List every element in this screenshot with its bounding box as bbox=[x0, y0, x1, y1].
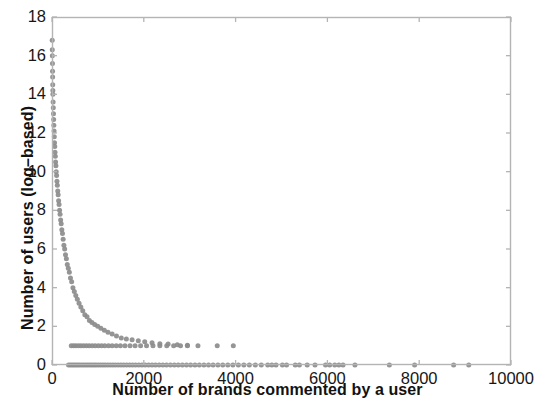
data-point bbox=[144, 343, 149, 348]
data-point bbox=[62, 247, 67, 252]
data-point bbox=[150, 343, 155, 348]
x-tick-label: 4000 bbox=[186, 369, 286, 388]
data-point bbox=[171, 343, 176, 348]
plot-background bbox=[52, 17, 511, 365]
data-point bbox=[51, 111, 56, 116]
data-point bbox=[51, 105, 56, 110]
data-point bbox=[110, 332, 115, 337]
x-tick-label: 6000 bbox=[277, 369, 377, 388]
data-point bbox=[53, 163, 58, 168]
data-point bbox=[195, 343, 200, 348]
x-tick-label: 2000 bbox=[94, 369, 194, 388]
y-tick-label: 18 bbox=[28, 7, 46, 26]
y-tick-label: 6 bbox=[37, 239, 46, 258]
y-tick-label: 12 bbox=[28, 123, 46, 142]
y-tick-label: 2 bbox=[37, 316, 46, 335]
y-tick-label: 16 bbox=[28, 46, 46, 65]
data-point bbox=[61, 237, 66, 242]
data-point bbox=[59, 221, 64, 226]
data-point bbox=[58, 212, 63, 217]
data-point bbox=[185, 343, 190, 348]
data-point bbox=[53, 154, 58, 159]
data-point bbox=[178, 343, 183, 348]
x-tick-label: 0 bbox=[2, 369, 102, 388]
data-point bbox=[136, 338, 141, 343]
data-point bbox=[133, 343, 138, 348]
data-point bbox=[56, 192, 61, 197]
x-tick-label: 10000 bbox=[461, 369, 535, 388]
data-point bbox=[122, 343, 127, 348]
data-point bbox=[164, 343, 169, 348]
data-point bbox=[128, 343, 133, 348]
data-point bbox=[157, 343, 162, 348]
data-point bbox=[114, 334, 119, 339]
data-point bbox=[69, 279, 74, 284]
data-point bbox=[118, 343, 123, 348]
data-point bbox=[57, 202, 62, 207]
y-tick-label: 8 bbox=[37, 200, 46, 219]
y-tick-label: 14 bbox=[28, 84, 46, 103]
data-point bbox=[215, 343, 220, 348]
data-point bbox=[138, 343, 143, 348]
data-point bbox=[119, 335, 124, 340]
data-point bbox=[130, 337, 135, 342]
x-tick-label: 8000 bbox=[369, 369, 469, 388]
plot-canvas bbox=[0, 0, 535, 403]
y-tick-label: 4 bbox=[37, 278, 46, 297]
data-point bbox=[55, 183, 60, 188]
data-point bbox=[60, 231, 65, 236]
scatter-plot-figure: Number of users (log–based) Number of br… bbox=[0, 0, 535, 403]
y-tick-label: 10 bbox=[28, 162, 46, 181]
data-point bbox=[124, 336, 129, 341]
data-point bbox=[54, 173, 59, 178]
data-point bbox=[64, 256, 69, 261]
data-point bbox=[67, 270, 72, 275]
y-axis-label-container: Number of users (log–based) bbox=[0, 0, 26, 403]
data-point bbox=[231, 343, 236, 348]
